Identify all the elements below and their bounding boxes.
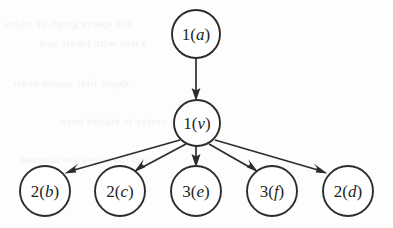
edge-v-to-f: [209, 144, 259, 173]
node-d[interactable]: 2(d): [323, 166, 373, 216]
edge-a-to-v: [192, 58, 201, 101]
edge-line-v-c: [141, 144, 186, 168]
node-d-number: 2: [334, 181, 343, 200]
node-label-f: 3(f): [260, 181, 285, 200]
edge-v-to-e: [192, 146, 201, 168]
node-v[interactable]: 1(v): [174, 100, 220, 146]
node-c-paren-close: ): [128, 181, 134, 200]
node-f-number: 3: [260, 181, 269, 200]
node-label-a: 1(a): [182, 24, 210, 43]
node-f-paren-close: ): [279, 181, 285, 200]
node-a[interactable]: 1(a): [172, 10, 220, 58]
node-e-paren-close: ): [204, 181, 210, 200]
node-e[interactable]: 3(e): [171, 166, 221, 216]
figure-root: the sparse graph of nodes a tree with la…: [0, 0, 393, 228]
node-v-number: 1: [183, 113, 192, 132]
node-label-c: 2(c): [106, 181, 133, 200]
node-b-paren-close: ): [54, 181, 60, 200]
node-c[interactable]: 2(c): [95, 166, 145, 216]
node-label-v: 1(v): [183, 113, 210, 132]
node-d-paren-close: ): [357, 181, 363, 200]
node-f[interactable]: 3(f): [247, 166, 297, 216]
edge-line-v-f: [209, 144, 251, 168]
edge-line-v-d: [215, 140, 318, 170]
node-b[interactable]: 2(b): [20, 166, 70, 216]
node-label-e: 3(e): [182, 181, 209, 200]
edge-v-to-c: [134, 144, 187, 173]
node-label-d: 2(d): [334, 181, 362, 200]
node-c-number: 2: [106, 181, 115, 200]
graph-canvas: 1(a) 1(v) 2(b) 2(c): [0, 0, 393, 228]
node-v-paren-close: ): [205, 113, 211, 132]
node-a-variable: a: [196, 24, 205, 43]
node-b-number: 2: [31, 181, 40, 200]
node-group: 1(a) 1(v) 2(b) 2(c): [20, 10, 373, 216]
node-a-number: 1: [182, 24, 191, 43]
node-label-b: 2(b): [31, 181, 59, 200]
node-b-variable: b: [45, 181, 54, 200]
node-a-paren-close: ): [205, 24, 211, 43]
node-e-number: 3: [182, 181, 191, 200]
